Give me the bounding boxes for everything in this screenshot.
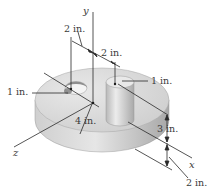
diagram-drawing [0, 0, 215, 196]
leader-2in-a [78, 32, 82, 46]
disk-bottom-line [135, 149, 172, 170]
dim-hole-radius: 1 in. [7, 87, 28, 97]
y-axis-label: y [83, 6, 89, 16]
dim-hole-offset: 2 in. [64, 24, 85, 34]
dim-boss-height: 3 in. [157, 124, 178, 134]
dim-boss-offset: 2 in. [101, 48, 122, 58]
disk [35, 68, 169, 152]
disk-top [35, 68, 169, 132]
dim-disk-thickness: 2 in. [186, 178, 207, 188]
dim-boss-radius: 1 in. [151, 76, 172, 86]
leader-2in-bottom [169, 157, 188, 178]
cylinder-boss [106, 76, 134, 126]
x-axis-label: x [189, 160, 195, 170]
z-axis-label: z [13, 148, 18, 158]
component-figure: y z x 2 in. 2 in. 1 in. 1 in. 4 in. 3 in… [0, 0, 215, 196]
dim-disk-radius: 4 in. [75, 116, 96, 126]
origin-point [92, 102, 95, 105]
